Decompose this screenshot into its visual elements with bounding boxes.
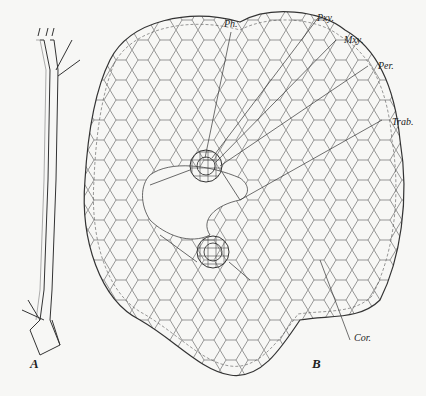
botanical-figure: Ph. Pxy. Mxy. Per. Trab. Cor. A B — [0, 0, 426, 396]
panel-label-a: A — [30, 356, 39, 372]
label-cortex: Cor. — [354, 332, 371, 343]
stem-drawing-a — [22, 28, 80, 355]
label-pericycle: Per. — [378, 60, 394, 71]
label-metaxylem: Mxy. — [344, 34, 363, 45]
label-phloem: Ph. — [224, 18, 238, 29]
label-protoxylem: Pxy. — [317, 12, 334, 23]
panel-label-b: B — [312, 356, 321, 372]
label-trabeculae: Trab. — [392, 116, 413, 127]
cross-section-b — [84, 12, 404, 376]
